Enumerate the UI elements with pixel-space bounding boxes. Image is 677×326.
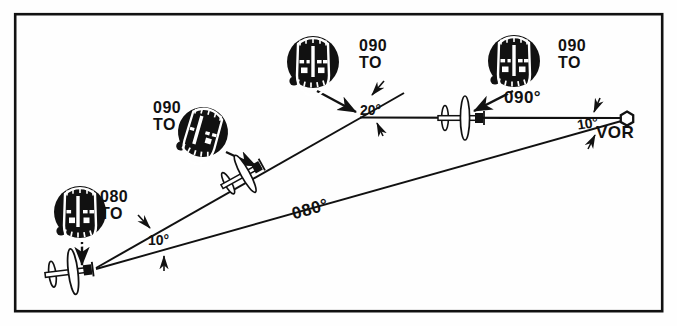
angle-label-10-vor: 10° bbox=[576, 115, 599, 133]
angle-label-10-aircraft: 10° bbox=[148, 233, 169, 248]
aircraft-at-origin bbox=[42, 247, 95, 298]
station-label: VOR bbox=[596, 124, 634, 142]
vor-indicator-090-to-mid[interactable] bbox=[287, 36, 339, 96]
indication-090-to-mid: 090 TO bbox=[359, 38, 387, 72]
indication-090-to-left: 090 TO bbox=[153, 100, 181, 134]
indication-course: 090 bbox=[359, 38, 387, 55]
indication-course: 090 bbox=[153, 100, 181, 117]
indication-flag: TO bbox=[558, 55, 586, 72]
indication-flag: TO bbox=[359, 55, 387, 72]
radial-080-line bbox=[96, 120, 625, 269]
intercept-leg-line bbox=[96, 117, 362, 268]
aircraft-on-090-radial bbox=[438, 96, 484, 140]
course-label-090: 090° bbox=[504, 89, 541, 107]
indication-flag: TO bbox=[100, 206, 128, 223]
indication-course: 080 bbox=[100, 189, 128, 206]
angle-label-20: 20° bbox=[360, 103, 381, 118]
vor-indicator-080-to[interactable] bbox=[54, 186, 106, 246]
indication-080-to: 080 TO bbox=[100, 189, 128, 223]
indication-course: 090 bbox=[558, 38, 586, 55]
indication-flag: TO bbox=[153, 117, 181, 134]
vor-indicator-090-to-right[interactable] bbox=[488, 35, 540, 95]
pointer-to-bend-point bbox=[317, 91, 356, 112]
indication-090-to-right: 090 TO bbox=[558, 38, 586, 72]
vor-navigation-figure: VOR 090° 080° 20° 10° 10° 090 TO 090 TO … bbox=[0, 0, 677, 326]
